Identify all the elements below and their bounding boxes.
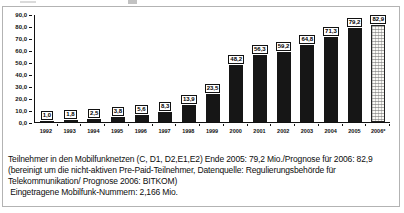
bar [206, 94, 220, 122]
plot-area: 1,01,82,53,85,68,313,923,548,256,359,264… [34, 15, 390, 123]
bar-value-label: 79,2 [347, 18, 363, 27]
cropped-text-artifact [20, 1, 36, 3]
y-axis-tick-mark [29, 15, 32, 16]
x-axis-label: 1994 [81, 128, 105, 134]
bar-value-label: 82,9 [370, 15, 386, 24]
bar [300, 45, 314, 122]
y-axis-tick-mark [29, 123, 32, 124]
y-axis-tick-label: 70,0 [15, 36, 27, 42]
x-axis-tick [295, 124, 319, 126]
x-axis-label: 2003 [295, 128, 319, 134]
x-axis-tick [153, 124, 177, 126]
cropped-text-artifact [128, 0, 137, 4]
bar [111, 117, 125, 122]
x-axis-tick [248, 124, 272, 126]
y-axis-tick-label: 0,0 [19, 120, 27, 126]
bar-group: 71,3 [319, 15, 343, 122]
bar-forecast [371, 25, 385, 122]
bar-group: 8,3 [153, 15, 177, 122]
bar-value-label: 59,2 [276, 42, 292, 51]
bar [324, 37, 338, 122]
y-axis-tick-label: 30,0 [15, 84, 27, 90]
bar-value-label: 2,5 [88, 109, 100, 118]
bar [229, 65, 243, 122]
bar-value-label: 8,3 [159, 102, 171, 111]
x-axis-label: 2000 [224, 128, 248, 134]
x-axis-tick [319, 124, 343, 126]
x-axis-labels: 1992199319941995199619971998199920002001… [34, 128, 390, 134]
bar-value-label: 71,3 [323, 27, 339, 36]
bar [182, 105, 196, 122]
bar-value-label: 3,8 [112, 107, 124, 116]
bar [158, 112, 172, 122]
bar-group: 56,3 [248, 15, 272, 122]
x-axis-label: 1992 [34, 128, 58, 134]
y-axis-tick-label: 90,0 [15, 12, 27, 18]
x-axis-label: 2002 [271, 128, 295, 134]
chart-frame: 90,080,070,060,050,040,030,020,010,00,0 … [2, 6, 400, 207]
bar-group: 82,9 [366, 15, 390, 122]
x-axis-label: 2006* [366, 128, 390, 134]
caption-line: (bereinigt um die nicht-aktiven Pre-Paid… [8, 165, 400, 176]
bar-value-label: 13,9 [181, 95, 197, 104]
bar [64, 120, 78, 122]
bar-value-label: 64,8 [299, 35, 315, 44]
x-axis-tick [58, 124, 82, 126]
x-axis-label: 1999 [200, 128, 224, 134]
bar-group: 5,6 [130, 15, 154, 122]
x-axis-label: 2001 [248, 128, 272, 134]
bar-value-label: 1,0 [41, 111, 53, 120]
x-axis-label: 1995 [105, 128, 129, 134]
y-axis-tick-label: 10,0 [15, 108, 27, 114]
caption: Teilnehmer in den Mobilfunknetzen (C, D1… [8, 154, 400, 198]
caption-line: Telekommunikation/ Prognose 2006: BITKOM… [8, 176, 400, 187]
bar-group: 23,5 [201, 15, 225, 122]
y-axis-tick-mark [29, 75, 32, 76]
bar [135, 115, 149, 122]
y-axis-tick-mark [29, 51, 32, 52]
y-axis-tick-label: 60,0 [15, 48, 27, 54]
x-axis-label: 1998 [176, 128, 200, 134]
x-axis-tick [224, 124, 248, 126]
x-axis-tick [129, 124, 153, 126]
y-axis-tick-mark [29, 99, 32, 100]
caption-line: Teilnehmer in den Mobilfunknetzen (C, D1… [8, 154, 400, 165]
y-axis-tick-label: 40,0 [15, 72, 27, 78]
bar-value-label: 56,3 [252, 45, 268, 54]
bar-group: 59,2 [272, 15, 296, 122]
x-axis-tick [81, 124, 105, 126]
y-axis-tick-label: 80,0 [15, 24, 27, 30]
bar-group: 48,2 [224, 15, 248, 122]
bar [277, 52, 291, 122]
x-axis-label: 2004 [319, 128, 343, 134]
bar-group: 3,8 [106, 15, 130, 122]
bar-value-label: 1,8 [64, 110, 76, 119]
bar-value-label: 23,5 [205, 84, 221, 93]
screenshot-root: 90,080,070,060,050,040,030,020,010,00,0 … [0, 0, 404, 213]
bar-value-label: 5,6 [135, 105, 147, 114]
y-axis-tick-mark [29, 27, 32, 28]
x-axis-tick [200, 124, 224, 126]
bar [348, 28, 362, 122]
y-axis-tick-label: 20,0 [15, 96, 27, 102]
x-axis-label: 1993 [58, 128, 82, 134]
x-axis-tick [271, 124, 295, 126]
y-axis-tick-mark [29, 87, 32, 88]
bar [253, 55, 267, 122]
bars-row: 1,01,82,53,85,68,313,923,548,256,359,264… [35, 15, 390, 122]
bar-group: 2,5 [82, 15, 106, 122]
x-axis-ticks [34, 124, 390, 127]
x-axis-label: 2005 [343, 128, 367, 134]
caption-line: Eingetragene Mobilfunk-Nummern: 2,166 Mi… [8, 187, 400, 198]
y-axis: 90,080,070,060,050,040,030,020,010,00,0 [3, 15, 32, 123]
bar-group: 1,8 [59, 15, 83, 122]
x-axis-tick [366, 124, 390, 126]
x-axis-label: 1997 [153, 128, 177, 134]
bar-value-label: 48,2 [228, 55, 244, 64]
bar-group: 1,0 [35, 15, 59, 122]
x-axis-label: 1996 [129, 128, 153, 134]
x-axis-tick [34, 124, 58, 126]
bar [40, 121, 54, 122]
x-axis-tick [343, 124, 367, 126]
y-axis-tick-mark [29, 39, 32, 40]
